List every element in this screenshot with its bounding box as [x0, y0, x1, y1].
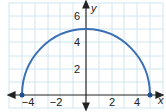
x-tick-m2: −2 — [50, 96, 63, 108]
y-tick-6: 6 — [74, 10, 80, 22]
y-tick-4: 4 — [74, 36, 80, 48]
x-tick-2: 2 — [109, 96, 115, 108]
x-tick-4: 4 — [134, 96, 140, 108]
endpoint-right — [148, 93, 153, 98]
x-axis-label: x — [157, 94, 164, 106]
x-tick-m4: −4 — [22, 96, 35, 108]
y-axis-label: y — [90, 2, 98, 14]
y-tick-2: 2 — [74, 63, 80, 75]
chart: −4 −2 2 4 2 4 6 x y — [0, 0, 166, 112]
